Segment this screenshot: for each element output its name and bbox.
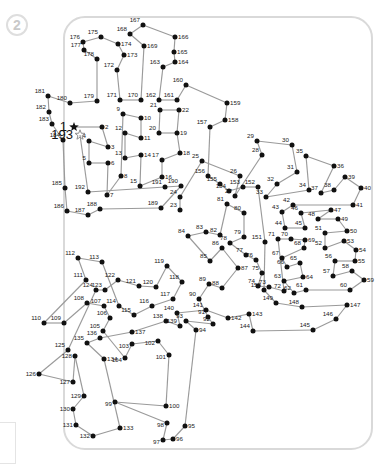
dot-marker xyxy=(123,356,128,361)
dot-number-label: 116 xyxy=(139,297,149,304)
dot-marker xyxy=(172,50,177,55)
dot-marker xyxy=(323,246,328,251)
dot-marker xyxy=(91,434,96,439)
dot-marker xyxy=(118,98,123,103)
dot-marker xyxy=(132,313,137,318)
dot-marker xyxy=(101,329,106,334)
dot-number-label: 14 xyxy=(144,151,151,158)
dot-number-label: 70 xyxy=(281,230,288,237)
dot-marker xyxy=(345,229,350,234)
dot-marker xyxy=(164,404,169,409)
dot-number-label: 79 xyxy=(234,228,241,235)
dot-number-label: 100 xyxy=(169,402,180,409)
dot-number-label: 69 xyxy=(308,236,315,243)
dot-number-label: 63 xyxy=(274,272,281,279)
dot-number-label: 164 xyxy=(178,58,189,65)
dot-number-label: 124 xyxy=(83,281,94,288)
dot-number-label: 28 xyxy=(252,146,259,153)
dot-number-label: 30 xyxy=(282,136,289,143)
dot-marker xyxy=(139,98,144,103)
dot-marker xyxy=(139,136,144,141)
dot-marker xyxy=(115,68,120,73)
dot-number-label: 13 xyxy=(115,149,122,156)
dot-marker xyxy=(204,230,209,235)
dot-marker xyxy=(302,246,307,251)
dot-number-label: 192 xyxy=(75,183,86,190)
dot-marker xyxy=(362,278,367,283)
dot-number-label: 102 xyxy=(145,339,156,346)
dot-number-label: 49 xyxy=(341,215,348,222)
connector-line xyxy=(162,153,180,160)
dot-marker xyxy=(157,131,162,136)
dot-number-label: 181 xyxy=(35,87,46,94)
dot-marker xyxy=(359,186,364,191)
dot-marker xyxy=(73,354,78,359)
dot-connector-lines xyxy=(39,25,364,440)
dot-number-label: 75 xyxy=(252,264,259,271)
dot-number-label: 52 xyxy=(315,239,322,246)
dot-number-label: 72 xyxy=(274,282,281,289)
dot-number-label: 156 xyxy=(195,167,206,174)
dot-marker xyxy=(141,23,146,28)
dot-marker xyxy=(183,424,188,429)
dot-marker xyxy=(68,101,73,106)
dot-number-label: 41 xyxy=(356,201,363,208)
dot-marker xyxy=(50,122,55,127)
dot-number-label: 135 xyxy=(74,334,85,341)
dot-number-label: 162 xyxy=(146,91,157,98)
dot-marker xyxy=(99,35,104,40)
dot-number-label: 92 xyxy=(203,315,210,322)
dot-number-label: 165 xyxy=(177,48,188,55)
dot-number-label: 130 xyxy=(60,405,71,412)
connector-line xyxy=(199,284,209,299)
connector-line xyxy=(130,34,144,46)
dot-number-label: 146 xyxy=(323,310,334,317)
dot-marker xyxy=(161,438,166,443)
dot-number-label: 182 xyxy=(36,103,47,110)
connector-line xyxy=(306,156,309,190)
dot-marker xyxy=(98,207,103,212)
connector-line xyxy=(143,25,175,37)
end-label: 193 xyxy=(51,127,73,142)
connector-line xyxy=(87,343,104,359)
dot-number-label: 87 xyxy=(241,264,248,271)
dot-marker xyxy=(171,437,176,442)
dot-number-label: 77 xyxy=(236,246,243,253)
dot-marker xyxy=(333,259,338,264)
dot-marker xyxy=(159,206,164,211)
dot-marker xyxy=(200,159,205,164)
connector-line xyxy=(75,356,84,396)
dot-number-label: 101 xyxy=(156,353,167,360)
dot-marker xyxy=(116,278,121,283)
dot-marker xyxy=(354,248,359,253)
connector-line xyxy=(123,114,141,118)
dot-marker xyxy=(303,226,308,231)
dot-marker xyxy=(334,317,339,322)
dot-number-label: 80 xyxy=(234,204,241,211)
dot-marker xyxy=(156,339,161,344)
dot-number-label: 44 xyxy=(275,219,282,226)
connector-line xyxy=(140,155,141,186)
dot-marker xyxy=(86,190,91,195)
connector-line xyxy=(173,282,182,299)
dot-number-label: 11 xyxy=(144,134,151,141)
connector-line xyxy=(225,103,227,120)
puzzle-page: 2 23456789101112131415161718192021222324… xyxy=(0,0,385,464)
connector-line xyxy=(333,271,352,276)
connector-line xyxy=(185,330,196,426)
dot-number-label: 150 xyxy=(251,281,262,288)
dot-number-label: 64 xyxy=(306,273,313,280)
dot-number-label: 154 xyxy=(216,182,227,189)
dot-number-label: 191 xyxy=(152,178,163,185)
dot-number-label: 48 xyxy=(308,210,315,217)
connector-line xyxy=(313,319,336,330)
dot-number-label: 166 xyxy=(178,33,189,40)
dot-number-label: 143 xyxy=(252,310,263,317)
dot-marker xyxy=(121,112,126,117)
dot-number-label: 136 xyxy=(87,329,98,336)
dot-number-label: 12 xyxy=(115,124,122,131)
dot-marker xyxy=(225,101,230,106)
connector-line xyxy=(89,141,108,147)
dot-number-label: 158 xyxy=(228,116,239,123)
dot-marker xyxy=(113,400,118,405)
